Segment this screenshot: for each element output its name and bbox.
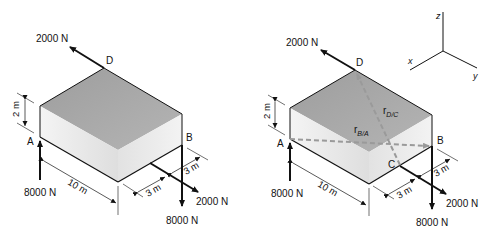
axis-y-line [443,51,477,68]
left-dim-height-label: 2 m [10,101,21,117]
left-force-d-label: 2000 N [36,33,68,44]
right-force-c-label: 2000 N [446,198,478,209]
right-force-a-label: 8000 N [271,188,303,199]
left-point-d-label: D [106,55,113,66]
left-dim-offset2-label: 3 m [182,159,201,176]
right-dim-offset-ext2 [437,149,458,161]
axis-x-line [410,51,443,70]
right-dim-length-label: 10 m [316,178,340,198]
right-dim-ext-bottom [268,125,285,135]
left-force-b-down-label: 8000 N [166,215,198,226]
left-force-side-label: 2000 N [196,196,228,207]
right-dim-offset2-label: 3 m [432,161,451,178]
right-point-d-label: D [356,57,363,68]
axis-z-label: z [435,11,441,21]
right-force-b-down-label: 8000 N [416,217,448,228]
coordinate-axes: z x y [407,11,478,81]
right-force-d-label: 2000 N [286,37,318,48]
right-point-a-label: A [277,138,284,149]
right-point-c-label: C [388,159,395,170]
left-dim-length-label: 10 m [66,176,90,196]
left-point-a-label: A [27,136,34,147]
right-point-b-label: B [437,135,444,146]
left-force-a-label: 8000 N [24,187,56,198]
left-figure: 2000 N D A 8000 N B 8000 N 2000 N 2 m 10… [10,33,228,226]
left-force-d-arrow [70,47,104,68]
right-dim-height-label: 2 m [261,103,272,119]
axis-y-label: y [472,71,478,81]
left-point-b-label: B [186,132,193,143]
left-dim-offset1-label: 3 m [144,181,163,198]
diagram-canvas: 2000 N D A 8000 N B 8000 N 2000 N 2 m 10… [0,0,491,247]
right-figure: rD/C rB/A 2000 N D A 8000 N B 8000 N C 2… [261,11,478,228]
axis-x-label: x [407,56,413,66]
right-force-d-arrow [321,50,355,70]
right-dim-offset1-label: 3 m [395,183,414,200]
right-dim-offset-ext1 [373,186,394,199]
left-dim-ext-bottom [17,123,34,133]
